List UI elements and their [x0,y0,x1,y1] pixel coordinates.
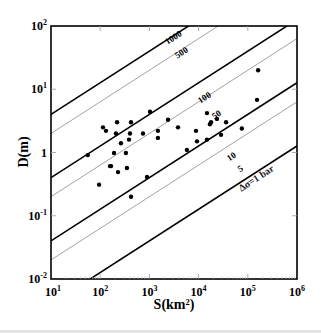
line-label-10: 10 [225,150,238,164]
x-axis-ticks: 101102103104105106 [45,26,305,299]
data-point [256,68,260,72]
data-point [219,133,223,137]
x-tick-label: 105 [240,284,256,299]
data-point [109,164,113,168]
line-labels: 100050010050105Δσ=1 bar [163,28,276,193]
stress-drop-line-1000 [51,0,297,114]
data-point [115,120,119,124]
data-point [125,166,129,170]
y-tick-label: 101 [31,81,47,96]
data-point [97,182,101,186]
data-points [86,68,261,199]
stress-drop-chart: 100050010050105Δσ=1 bar 1011021031041051… [0,0,321,333]
data-point [166,118,170,122]
stress-drop-line-10 [51,83,297,241]
y-tick-label: 10-1 [28,208,47,223]
line-label-1: Δσ=1 bar [236,162,276,193]
y-tick-label: 10-2 [28,271,47,286]
data-point [148,110,152,114]
data-point [194,129,198,133]
stress-drop-lines [51,0,297,304]
data-point [185,148,189,152]
data-point [205,111,209,115]
data-point [240,126,244,130]
stress-drop-line-500 [51,0,297,133]
line-label-50: 50 [210,108,223,122]
x-tick-label: 106 [289,284,305,299]
data-point [224,120,228,124]
y-axis-ticks: 10-210-11101102 [28,18,297,286]
data-point [114,131,118,135]
line-label-500: 500 [173,44,190,60]
y-axis-label: D(m) [16,136,32,167]
data-point [127,137,131,141]
data-point [195,139,199,143]
data-point [205,137,209,141]
data-point [156,129,160,133]
line-label-100: 100 [196,89,213,105]
data-point [86,153,90,157]
data-point [129,195,133,199]
data-point [176,125,180,129]
data-point [156,136,160,140]
data-point [141,131,145,135]
data-point [255,98,259,102]
data-point [116,170,120,174]
data-point [145,175,149,179]
plot-frame [51,26,297,279]
data-point [209,120,213,124]
data-point [124,151,128,155]
data-point [104,129,108,133]
data-point [112,151,116,155]
data-point [119,141,123,145]
y-tick-label: 102 [31,18,47,33]
x-tick-label: 101 [45,284,61,299]
line-label-5: 5 [236,163,246,174]
x-tick-label: 102 [92,284,108,299]
x-axis-label: S(km²) [154,297,195,313]
data-point [128,131,132,135]
data-point [101,125,105,129]
y-tick-label: 1 [41,146,47,160]
data-point [129,120,133,124]
